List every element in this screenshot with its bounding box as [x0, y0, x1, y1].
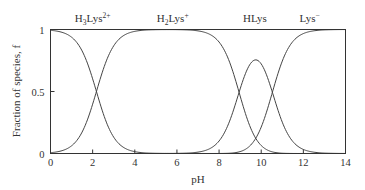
- y-tick-label: 0: [39, 149, 44, 160]
- curve-Lys-: [51, 30, 346, 154]
- series-labels: H3Lys2+H2Lys+HLysLys−: [75, 11, 320, 27]
- x-tick-label: 12: [298, 157, 309, 168]
- species-fraction-chart: 02468101214 00.51 H3Lys2+H2Lys+HLysLys− …: [0, 0, 365, 190]
- x-tick-label: 0: [48, 157, 53, 168]
- curve-H3Lys2+: [51, 30, 346, 153]
- y-tick-label: 0.5: [31, 87, 44, 98]
- plot-frame: [51, 30, 346, 154]
- y-axis-label: Fraction of species, f: [10, 45, 22, 138]
- x-axis-label: pH: [191, 173, 205, 185]
- y-axis-ticks: 00.51: [31, 25, 54, 160]
- series-label: H3Lys2+: [75, 11, 111, 27]
- x-tick-label: 14: [340, 157, 351, 168]
- x-tick-label: 8: [216, 157, 221, 168]
- curve-HLys: [51, 60, 346, 154]
- series-label: Lys−: [300, 11, 320, 24]
- series-label: H2Lys+: [157, 11, 189, 27]
- x-tick-label: 6: [174, 157, 179, 168]
- x-tick-label: 10: [256, 157, 267, 168]
- x-tick-label: 2: [90, 157, 95, 168]
- x-tick-label: 4: [132, 157, 138, 168]
- series-label: HLys: [243, 12, 267, 24]
- species-curves: [51, 30, 346, 154]
- curve-H2Lys+: [51, 30, 346, 154]
- y-tick-label: 1: [39, 25, 44, 36]
